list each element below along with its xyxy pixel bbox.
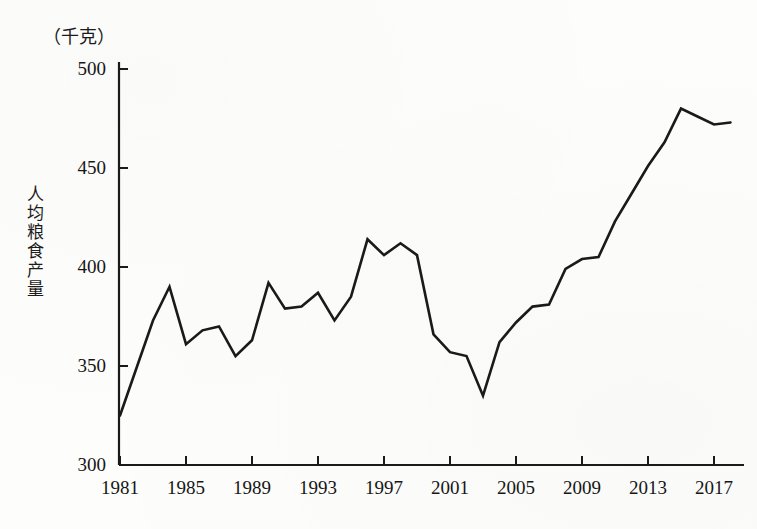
axes (119, 62, 744, 465)
data-series-line (120, 109, 731, 416)
chart-page: （千克） 人均粮食产量 500 450 400 350 300 1981 198… (0, 0, 757, 529)
line-chart-plot (0, 0, 757, 529)
x-tick-marks (120, 456, 714, 465)
